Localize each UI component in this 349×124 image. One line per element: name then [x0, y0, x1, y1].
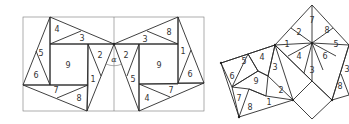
piece-number-label: 8 [76, 94, 81, 103]
piece-number-label: 8 [337, 82, 342, 91]
angle-alpha-label: α [111, 55, 117, 64]
piece-number-label: 4 [296, 52, 301, 61]
piece-number-label: 6 [229, 72, 234, 81]
piece-number-label: 2 [123, 51, 128, 60]
piece-number-label: 2 [278, 86, 283, 95]
piece-number-label: 8 [166, 28, 171, 37]
piece-number-label: 3 [272, 63, 277, 72]
piece-number-label: 6 [33, 71, 38, 80]
piece-number-label: 1 [284, 40, 289, 49]
piece-number-label: 9 [65, 61, 70, 70]
vertex-dot [113, 43, 116, 46]
piece-number-label: 9 [253, 77, 258, 86]
piece-number-label: 1 [90, 75, 95, 84]
piece-number-label: 4 [144, 94, 149, 103]
piece-number-label: 9 [156, 61, 161, 70]
piece-number-label: 6 [322, 52, 327, 61]
piece-number-label: 3 [309, 66, 314, 75]
piece-number-label: 5 [130, 75, 135, 84]
left-figure: α [23, 17, 204, 111]
square-9 [232, 71, 268, 96]
piece-number-label: 2 [296, 28, 301, 37]
piece-number-label: 4 [54, 25, 59, 34]
piece-number-label: 4 [259, 53, 264, 62]
dissection-diagram: α [0, 0, 349, 124]
piece-number-label: 7 [236, 94, 241, 103]
piece-number-label: 6 [187, 70, 192, 79]
piece-number-label: 7 [53, 86, 58, 95]
piece-number-label: 3 [79, 34, 84, 43]
piece-number-label: 7 [168, 86, 173, 95]
piece-number-label: 2 [97, 51, 102, 60]
piece-number-label: 7 [309, 16, 314, 25]
piece-number-label: 5 [241, 57, 246, 66]
piece-number-label: 3 [344, 65, 349, 74]
piece-number-label: 5 [38, 49, 43, 58]
hub-dot [311, 42, 314, 45]
center-diamond [293, 81, 332, 119]
piece-number-label: 3 [142, 35, 147, 44]
piece-number-label: 1 [266, 98, 271, 107]
piece-number-label: 8 [247, 103, 252, 112]
piece-number-label: 1 [180, 47, 185, 56]
piece-number-label: 5 [333, 40, 338, 49]
piece-number-label: 8 [324, 26, 329, 35]
